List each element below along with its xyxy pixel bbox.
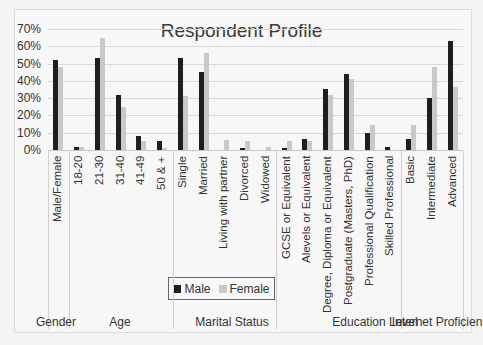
x-tick-label: Intermediate	[425, 156, 437, 220]
bar-female	[183, 96, 188, 150]
y-tick-label: 0%	[0, 143, 41, 157]
group-divider	[463, 151, 464, 329]
bar-female	[162, 148, 167, 150]
gridline	[48, 115, 463, 116]
legend: Male Female	[168, 277, 275, 300]
y-tick-label: 40%	[0, 74, 41, 88]
bar-female	[121, 107, 126, 150]
bar-female	[432, 67, 437, 150]
group-label: Age	[109, 315, 130, 329]
x-tick-label: Skilled Professional	[383, 156, 395, 256]
x-tick-label: Alevels or Equivalent	[300, 156, 312, 263]
legend-item-female: Female	[219, 282, 270, 296]
bar-female	[224, 140, 229, 150]
gridline	[48, 29, 463, 30]
x-tick-label: 31-40	[114, 156, 126, 185]
x-tick-label: 50 & +	[155, 156, 167, 190]
bar-female	[204, 53, 209, 150]
x-tick-label: 41-49	[134, 156, 146, 185]
bar-female	[141, 141, 146, 150]
y-tick-label: 20%	[0, 108, 41, 122]
bar-female	[307, 141, 312, 150]
gridline	[48, 81, 463, 82]
bar-female	[100, 38, 105, 150]
gridline	[48, 133, 463, 134]
bar-female	[411, 125, 416, 150]
y-tick-label: 30%	[0, 91, 41, 105]
x-tick-label: Professional Qualification	[363, 156, 375, 286]
bar-female	[245, 141, 250, 150]
x-tick-label: Advanced	[446, 156, 458, 207]
chart-title: Respondent Profile	[0, 20, 483, 42]
x-tick-label: Male/Female	[51, 156, 63, 222]
gridline	[48, 64, 463, 65]
female-swatch-icon	[219, 285, 227, 293]
bar-female	[287, 141, 292, 150]
bar-male	[385, 147, 390, 150]
group-divider	[401, 151, 402, 329]
legend-item-male: Male	[173, 282, 210, 296]
y-tick-label: 50%	[0, 57, 41, 71]
x-tick-label: Single	[176, 156, 188, 188]
x-tick-label: Divorced	[238, 156, 250, 201]
x-tick-label: 21-30	[93, 156, 105, 185]
y-tick-label: 60%	[0, 39, 41, 53]
x-tick-label: Living with partner	[217, 156, 229, 249]
group-divider	[48, 151, 49, 329]
gridline	[48, 98, 463, 99]
gridline	[48, 46, 463, 47]
bar-female	[349, 79, 354, 150]
y-tick-label: 10%	[0, 126, 41, 140]
male-swatch-icon	[173, 285, 181, 293]
group-label: Gender	[36, 315, 76, 329]
group-divider	[276, 151, 277, 329]
bar-female	[370, 125, 375, 150]
bar-female	[58, 67, 63, 150]
group-label: Internet Proficien	[392, 315, 483, 329]
group-label: Marital Status	[195, 315, 268, 329]
group-divider	[173, 151, 174, 329]
bar-female	[328, 95, 333, 150]
bar-female	[266, 147, 271, 150]
x-tick-label: Married	[197, 156, 209, 195]
x-tick-label: GCSE or Equivalent	[280, 156, 292, 259]
x-tick-label: Degree, Diploma or Equivalent	[321, 156, 333, 313]
y-tick-label: 70%	[0, 22, 41, 36]
x-tick-label: Widowed	[259, 156, 271, 203]
x-tick-label: Basic	[404, 156, 416, 184]
bar-female	[453, 87, 458, 150]
x-tick-label: Postgraduate (Masters, PhD)	[342, 156, 354, 305]
x-tick-label: 18-20	[72, 156, 84, 185]
group-divider	[69, 151, 70, 329]
bar-female	[79, 147, 84, 150]
